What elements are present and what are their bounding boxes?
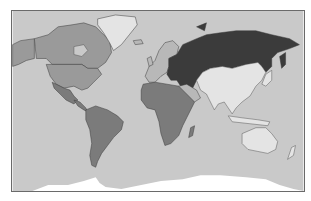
map-canvas: [12, 11, 304, 191]
world-map: [11, 10, 305, 192]
region-iceland: [133, 40, 143, 45]
